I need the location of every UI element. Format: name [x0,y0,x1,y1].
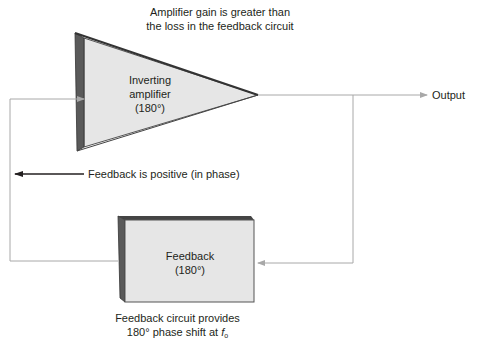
frequency-subscript: o [224,332,228,339]
phase-shift-note: Feedback circuit provides 180° phase shi… [105,311,250,343]
feedback-label-line1: Feedback [145,249,235,263]
phase-shift-note-line2: 180° phase shift at fo [105,325,250,343]
amplifier-label-line2: amplifier [110,87,190,101]
frequency-symbol: fo [221,326,228,338]
amplifier-label-line3: (180°) [110,101,190,115]
feedback-input-wire [258,95,353,263]
amplifier-label-line1: Inverting [110,73,190,87]
feedback-top-face [118,216,254,220]
amplifier-side-face [75,33,84,151]
diagram-canvas [0,0,481,343]
gain-note-line1: Amplifier gain is greater than [120,5,320,19]
gain-note: Amplifier gain is greater than the loss … [120,5,320,33]
gain-note-line2: the loss in the feedback circuit [120,19,320,33]
amplifier-label: Inverting amplifier (180°) [110,73,190,115]
feedback-block-label: Feedback (180°) [145,249,235,277]
phase-shift-note-line1: Feedback circuit provides [105,311,250,325]
feedback-side-face [118,216,125,302]
output-label: Output [432,88,465,102]
feedback-label-line2: (180°) [145,263,235,277]
phase-shift-text: 180° phase shift at [127,326,221,338]
positive-feedback-label: Feedback is positive (in phase) [88,167,240,181]
